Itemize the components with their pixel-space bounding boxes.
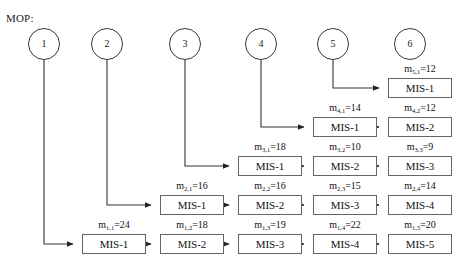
mis-box-label-1-4: MIS-4 <box>313 234 377 254</box>
processing-time-label-1-3: m1,3=19 <box>238 219 302 230</box>
mis-box-label-3-2: MIS-2 <box>313 156 377 176</box>
mop-label: MOP: <box>6 12 34 24</box>
processing-time-label-2-3: m2,3=15 <box>313 180 377 191</box>
processing-time-label-1-4: m1,4=22 <box>313 219 377 230</box>
connector-node-2-to-row-2 <box>107 60 151 205</box>
processing-time-label-3-3: m3,3=9 <box>388 141 452 152</box>
mis-box-label-2-2: MIS-2 <box>238 195 302 215</box>
mis-box-label-3-3: MIS-3 <box>388 156 452 176</box>
mis-box-label-2-1: MIS-1 <box>160 195 224 215</box>
processing-time-label-5-1: m5,1=12 <box>388 63 452 74</box>
connector-paths <box>44 60 379 244</box>
processing-time-label-3-1: m3,1=18 <box>238 141 302 152</box>
mis-box-label-1-1: MIS-1 <box>82 234 146 254</box>
processing-time-label-1-2: m1,2=18 <box>160 219 224 230</box>
mis-box-label-2-3: MIS-3 <box>313 195 377 215</box>
processing-time-label-4-2: m4,2=12 <box>388 102 452 113</box>
mis-box-label-4-2: MIS-2 <box>388 117 452 137</box>
mis-box-label-5-1: MIS-1 <box>388 78 452 98</box>
processing-time-label-2-4: m2,4=14 <box>388 180 452 191</box>
processing-time-label-3-2: m3,2=10 <box>313 141 377 152</box>
mis-box-label-1-3: MIS-3 <box>238 234 302 254</box>
mis-box-label-2-4: MIS-4 <box>388 195 452 215</box>
processing-time-label-2-2: m2,2=16 <box>238 180 302 191</box>
connector-node-5-to-row-5 <box>333 60 379 88</box>
mis-box-label-3-1: MIS-1 <box>238 156 302 176</box>
mop-node-label-4: 4 <box>245 28 277 60</box>
connector-node-1-to-row-1 <box>44 60 73 244</box>
mop-mis-diagram: MOP: 123456 MIS-1m5,1=12MIS-1m4,1=14MIS-… <box>0 0 458 279</box>
processing-time-label-2-1: m2,1=16 <box>160 180 224 191</box>
mop-node-label-6: 6 <box>394 28 426 60</box>
mis-box-label-4-1: MIS-1 <box>313 117 377 137</box>
mop-node-label-5: 5 <box>317 28 349 60</box>
mop-node-label-2: 2 <box>91 28 123 60</box>
connector-node-4-to-row-4 <box>261 60 304 127</box>
processing-time-label-1-1: m1,1=24 <box>82 219 146 230</box>
mis-box-label-1-5: MIS-5 <box>388 234 452 254</box>
processing-time-label-1-5: m1,5=20 <box>388 219 452 230</box>
mop-node-label-3: 3 <box>169 28 201 60</box>
connector-node-3-to-row-3 <box>185 60 229 166</box>
mis-box-label-1-2: MIS-2 <box>160 234 224 254</box>
mop-node-label-1: 1 <box>28 28 60 60</box>
processing-time-label-4-1: m4,1=14 <box>313 102 377 113</box>
